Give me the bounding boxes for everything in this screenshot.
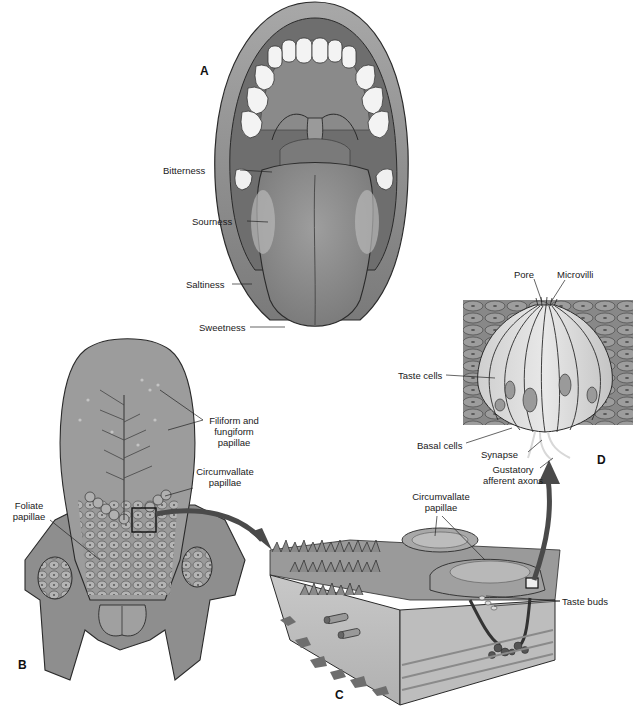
label-sweetness: Sweetness <box>199 322 245 333</box>
label-gustatory-afferent-axons: Gustatory afferent axons <box>475 464 551 486</box>
panel-c-tissue-block <box>270 528 560 705</box>
epiglottis <box>99 605 146 636</box>
label-bitterness: Bitterness <box>163 165 205 176</box>
panel-a-mouth <box>215 2 408 326</box>
panel-letter-d: D <box>597 453 606 467</box>
label-circumvallate-b-line1: Circumvallate <box>193 466 257 477</box>
right-tonsil <box>182 547 212 587</box>
panel-b-tongue-dorsal <box>25 339 245 680</box>
label-taste-buds: Taste buds <box>562 596 608 607</box>
label-saltiness: Saltiness <box>186 279 225 290</box>
label-gustatory-line1: Gustatory <box>475 464 551 475</box>
left-tonsil <box>38 557 72 599</box>
label-filiform-fungiform-papillae: Filiform and fungiform papillae <box>203 415 265 448</box>
afferent-axons <box>528 432 570 460</box>
label-circumvallate-c-line2: papillae <box>405 502 477 513</box>
panel-letter-c: C <box>335 688 344 702</box>
label-circumvallate-papillae-c: Circumvallate papillae <box>405 491 477 513</box>
label-filiform-line2: fungiform <box>203 426 265 437</box>
taste-anatomy-illustration <box>0 0 644 712</box>
label-sourness: Sourness <box>192 216 232 227</box>
label-filiform-line3: papillae <box>203 437 265 448</box>
label-foliate-line2: papillae <box>8 511 50 522</box>
label-circumvallate-c-line1: Circumvallate <box>405 491 477 502</box>
label-taste-cells: Taste cells <box>398 370 442 381</box>
label-circumvallate-b-line2: papillae <box>193 477 257 488</box>
label-basal-cells: Basal cells <box>417 440 462 451</box>
label-filiform-line1: Filiform and <box>203 415 265 426</box>
label-gustatory-line2: afferent axons <box>475 475 551 486</box>
label-synapse: Synapse <box>481 449 518 460</box>
panel-letter-b: B <box>18 658 27 672</box>
label-foliate-line1: Foliate <box>8 500 50 511</box>
label-circumvallate-papillae-b: Circumvallate papillae <box>193 466 257 488</box>
label-pore: Pore <box>514 269 534 280</box>
panel-letter-a: A <box>200 64 209 78</box>
label-foliate-papillae: Foliate papillae <box>8 500 50 522</box>
arrow-b-to-c-head <box>250 528 272 550</box>
label-microvilli: Microvilli <box>557 269 593 280</box>
